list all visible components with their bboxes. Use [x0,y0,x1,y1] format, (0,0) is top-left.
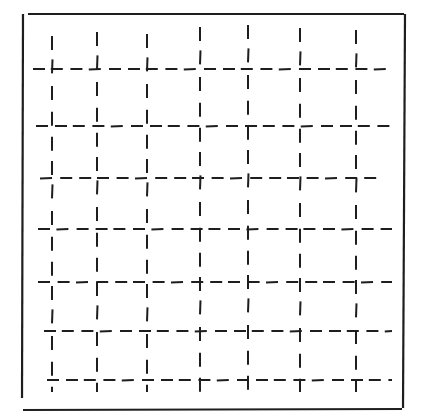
row-1-dash [374,69,386,70]
frame-border [22,14,405,410]
column-1-dash [52,309,53,323]
row-1-dash [184,69,196,70]
frame-right [403,14,405,408]
row-1-dash [89,69,101,70]
column-2-dash [97,55,98,69]
frame-bottom [23,409,402,410]
row-5-dash [361,282,373,283]
column-7-dash [356,178,357,192]
row-6-dash [100,331,112,332]
column-3-dash [147,182,148,196]
row-3-dash [40,178,52,179]
column-5-dash [248,173,249,187]
row-5-dash [266,282,278,283]
column-1-dash [52,59,53,73]
horizontal-dashed-lines [33,69,392,381]
column-2-dash [97,305,98,319]
grid-canvas [0,0,423,420]
row-6-dash [385,331,392,332]
row-7-dash [217,380,229,381]
row-3-dash [230,178,242,179]
row-4-dash [341,229,353,230]
column-6-dash [300,51,301,65]
row-3-dash [325,178,337,179]
dashed-grid-diagram [0,0,423,420]
row-4-dash [56,229,68,230]
row-5-dash [76,282,88,283]
row-2-dash [301,126,313,127]
column-7-dash [356,53,357,67]
row-5-dash [171,282,183,283]
column-6-dash [300,176,301,190]
row-7-dash [312,380,324,381]
column-3-dash [147,57,148,71]
row-2-dash [206,126,218,127]
column-4-dash [200,300,201,314]
column-7-dash [356,303,357,317]
row-7-dash [122,380,134,381]
frame-left [22,14,23,398]
row-4-dash [151,229,163,230]
column-5-dash [248,48,249,62]
column-1-dash [52,184,53,198]
row-3-dash [135,178,147,179]
column-4-dash [200,50,201,64]
row-1-dash [279,69,291,70]
column-3-dash [147,307,148,321]
row-2-dash [111,126,123,127]
column-2-dash [97,180,98,194]
column-5-dash [248,298,249,312]
column-4-dash [200,175,201,189]
vertical-dashed-lines [52,25,357,392]
column-6-dash [300,301,301,315]
